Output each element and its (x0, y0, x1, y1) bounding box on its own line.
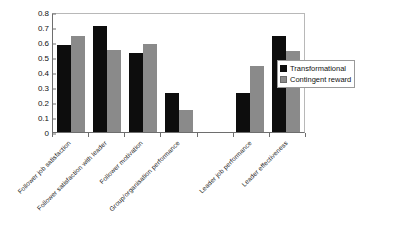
x-axis-tick-mark (305, 133, 306, 137)
legend-item: Contingent reward (280, 74, 351, 85)
y-axis-tick-label: 0.6 (38, 40, 53, 48)
bar-transformational (57, 45, 71, 132)
legend-item: Transformational (280, 63, 351, 74)
plot-area: 00.10.20.30.40.50.60.70.8 (52, 13, 305, 133)
x-axis-category-label: Follower job satisfaction (0, 140, 72, 238)
legend-item-label: Contingent reward (290, 76, 351, 84)
bar-group (232, 14, 268, 132)
x-axis-category-label: Follower motivation (0, 140, 145, 238)
y-axis-tick-label: 0.7 (38, 25, 53, 33)
bar-chart-figure: 00.10.20.30.40.50.60.70.8 Follower job s… (0, 0, 397, 238)
x-axis-ticks (52, 133, 305, 137)
bar-group (196, 14, 232, 132)
x-axis-tick-mark (52, 133, 53, 137)
x-axis-tick-mark (269, 133, 270, 137)
x-axis-category-label: Follower satisfaction with leader (0, 140, 109, 238)
bar-transformational (129, 53, 143, 133)
x-axis-tick-mark (160, 133, 161, 137)
legend: Transformational Contingent reward (277, 60, 355, 88)
bar-contingent (179, 110, 193, 133)
bar-transformational (236, 93, 250, 132)
bar-group (161, 14, 197, 132)
bar-contingent (71, 36, 85, 132)
y-axis-tick-label: 0.8 (38, 10, 53, 18)
bar-transformational (165, 93, 179, 132)
bar-group (89, 14, 125, 132)
bar-transformational (93, 26, 107, 133)
x-axis-tick-mark (124, 133, 125, 137)
bars-layer (53, 14, 304, 132)
legend-item-label: Transformational (290, 65, 346, 73)
bar-contingent (250, 66, 264, 132)
y-axis-tick-label: 0.3 (38, 85, 53, 93)
x-axis-category-label: Leader effectiveness (143, 140, 289, 238)
x-axis-tick-mark (88, 133, 89, 137)
x-axis-category-label: Group/organisation performance (35, 140, 181, 238)
bar-group (53, 14, 89, 132)
x-axis-tick-mark (197, 133, 198, 137)
y-axis-tick-label: 0.5 (38, 55, 53, 63)
black-square-icon (280, 65, 287, 72)
bar-contingent (107, 50, 121, 133)
gray-square-icon (280, 76, 287, 83)
x-axis-tick-mark (233, 133, 234, 137)
x-axis-category-label: Leader job performance (107, 140, 253, 238)
bar-contingent (143, 44, 157, 133)
y-axis-tick-label: 0.2 (38, 100, 53, 108)
y-axis-tick-label: 0.1 (38, 115, 53, 123)
bar-group (125, 14, 161, 132)
y-axis-tick-label: 0.4 (38, 70, 53, 78)
